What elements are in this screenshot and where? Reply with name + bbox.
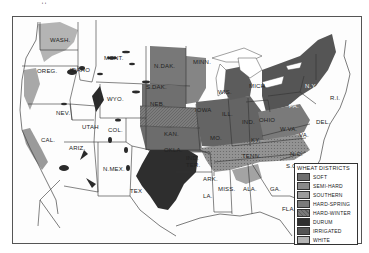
hard-spring-region [142, 46, 206, 108]
legend-item-southern: SOUTHERN [297, 191, 357, 199]
label-col: COL. [108, 127, 123, 133]
label-ga: GA. [270, 186, 281, 192]
label-miss: MISS. [218, 186, 235, 192]
hard-winter-region [140, 106, 202, 152]
legend-swatch [297, 236, 310, 244]
label-wva: W.VA. [280, 126, 297, 132]
label-ndak: N.DAK. [154, 63, 175, 69]
label-tex: TEX [130, 188, 142, 194]
legend-item-durum: DURUM [297, 218, 357, 226]
legend-item-soft: SOFT [297, 173, 357, 181]
legend-label: DURUM [313, 219, 333, 225]
label-okla: OKLA. [164, 147, 183, 153]
label-ny: N.Y. [305, 83, 317, 89]
legend-item-hard-winter: HARD-WINTER [297, 209, 357, 217]
legend-item-irrigated: IRRIGATED [297, 227, 357, 235]
legend-title: WHEAT DISTRICTS [297, 165, 350, 171]
label-nc: N.C. [290, 151, 303, 157]
label-iowa: IOWA [195, 107, 212, 113]
label-neb: NEB. [150, 101, 165, 107]
legend-swatch [297, 209, 310, 217]
legend-label: WHITE [313, 237, 330, 243]
legend-item-semi-hard: SEMI-HARD [297, 182, 357, 190]
legend: WHEAT DISTRICTS SOFT SEMI-HARD SOUTHERN … [294, 163, 358, 245]
label-idaho: IDAHO [70, 67, 90, 73]
label-sdak: S.DAK. [146, 84, 167, 90]
label-indiana: IND. [242, 119, 255, 125]
legend-swatch [297, 191, 310, 199]
label-la: LA. [203, 193, 213, 199]
legend-label: IRRIGATED [313, 228, 342, 234]
label-ind: IND. [186, 155, 199, 161]
label-del: DEL. [316, 119, 330, 125]
legend-swatch [297, 218, 310, 226]
legend-swatch [297, 182, 310, 190]
label-mich: MICH. [249, 83, 267, 89]
legend-label: HARD-SPRING [313, 201, 350, 207]
legend-label: HARD-WINTER [313, 210, 351, 216]
label-oreg: OREG. [37, 68, 57, 74]
label-ri: R.I. [330, 95, 340, 101]
page-mark: ˈˈ [41, 1, 47, 11]
label-utah: UTAH [82, 124, 99, 130]
label-kan: KAN. [164, 131, 179, 137]
label-va: VA. [299, 132, 309, 138]
label-ill: ILL. [222, 111, 233, 117]
label-ariz: ARIZ. [69, 145, 85, 151]
legend-item-white: WHITE [297, 236, 357, 244]
label-wis: WIS. [218, 89, 232, 95]
legend-swatch [297, 227, 310, 235]
legend-label: SOFT [313, 174, 327, 180]
label-wyo: WYO. [107, 96, 124, 102]
label-cal: CAL. [41, 137, 55, 143]
soft-wheat-region [196, 34, 336, 148]
label-ala: ALA. [243, 186, 257, 192]
label-nmex: N.MEX. [103, 166, 125, 172]
legend-label: SEMI-HARD [313, 183, 343, 189]
label-nev: NEV. [56, 110, 70, 116]
label-ohio: OHIO [259, 117, 275, 123]
label-ark: ARK. [203, 176, 218, 182]
label-ky: KY. [251, 137, 261, 143]
legend-swatch [297, 200, 310, 208]
legend-swatch [297, 173, 310, 181]
label-wash: WASH. [50, 37, 71, 43]
label-minn: MINN. [193, 59, 211, 65]
legend-label: SOUTHERN [313, 192, 343, 198]
label-ter: TER. [186, 162, 201, 168]
label-pa: PA. [289, 103, 299, 109]
label-mont: MONT. [104, 55, 124, 61]
label-tenn: TENN. [242, 153, 261, 159]
label-mo: MO. [210, 135, 222, 141]
legend-item-hard-spring: HARD-SPRING [297, 200, 357, 208]
